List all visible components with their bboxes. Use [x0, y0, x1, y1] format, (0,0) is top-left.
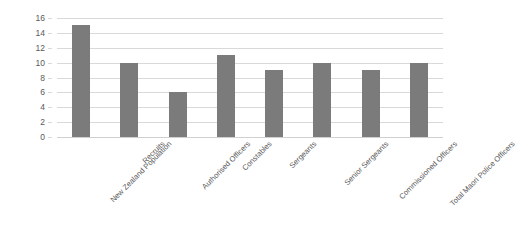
- y-tick-label: 10: [36, 58, 45, 67]
- gridline: [57, 92, 443, 93]
- x-tick-label: Senior Sergeants: [344, 140, 391, 187]
- y-tick-label: 6: [40, 88, 45, 97]
- y-tick-label: 8: [40, 73, 45, 82]
- x-axis: New Zealand PopulationRecruitsAuthorised…: [57, 137, 443, 231]
- x-tick-label-text: Senior Sergeants: [344, 140, 391, 187]
- y-tick-mark: [48, 48, 52, 49]
- x-tick-label-text: New Zealand Population: [109, 140, 173, 204]
- x-tick-label: Commissioned Officers: [398, 140, 459, 201]
- y-tick-mark: [48, 137, 52, 138]
- y-tick-mark: [48, 107, 52, 108]
- gridline: [57, 122, 443, 123]
- gridline: [57, 48, 443, 49]
- bar: [362, 70, 380, 137]
- gridline: [57, 63, 443, 64]
- bar: [217, 55, 235, 137]
- y-tick-label: 16: [36, 14, 45, 23]
- x-tick-label-text: Total Maori Police Officers: [449, 140, 517, 208]
- y-tick-mark: [48, 122, 52, 123]
- y-tick-mark: [48, 92, 52, 93]
- x-tick-label-text: Sergeants: [288, 140, 318, 170]
- y-tick-mark: [48, 33, 52, 34]
- y-tick-label: 4: [40, 103, 45, 112]
- y-tick-mark: [48, 18, 52, 19]
- y-tick-mark: [48, 78, 52, 79]
- y-axis: 0246810121416: [0, 18, 52, 137]
- y-tick-label: 0: [40, 133, 45, 142]
- y-tick-mark: [48, 63, 52, 64]
- y-tick-label: 2: [40, 118, 45, 127]
- y-tick-label: 14: [36, 29, 45, 38]
- bar: [120, 63, 138, 137]
- x-tick-label-text: Commissioned Officers: [398, 140, 459, 201]
- gridline: [57, 18, 443, 19]
- gridline: [57, 78, 443, 79]
- x-tick-label: Total Maori Police Officers: [449, 140, 517, 208]
- bar: [169, 92, 187, 137]
- bar: [313, 63, 331, 137]
- x-tick-label: New Zealand Population: [109, 140, 173, 204]
- y-tick-label: 12: [36, 44, 45, 53]
- gridline: [57, 33, 443, 34]
- bar: [265, 70, 283, 137]
- plot-area: [57, 18, 443, 137]
- gridline: [57, 107, 443, 108]
- bar: [72, 25, 90, 137]
- x-tick-label: Sergeants: [288, 140, 318, 170]
- bar: [410, 63, 428, 137]
